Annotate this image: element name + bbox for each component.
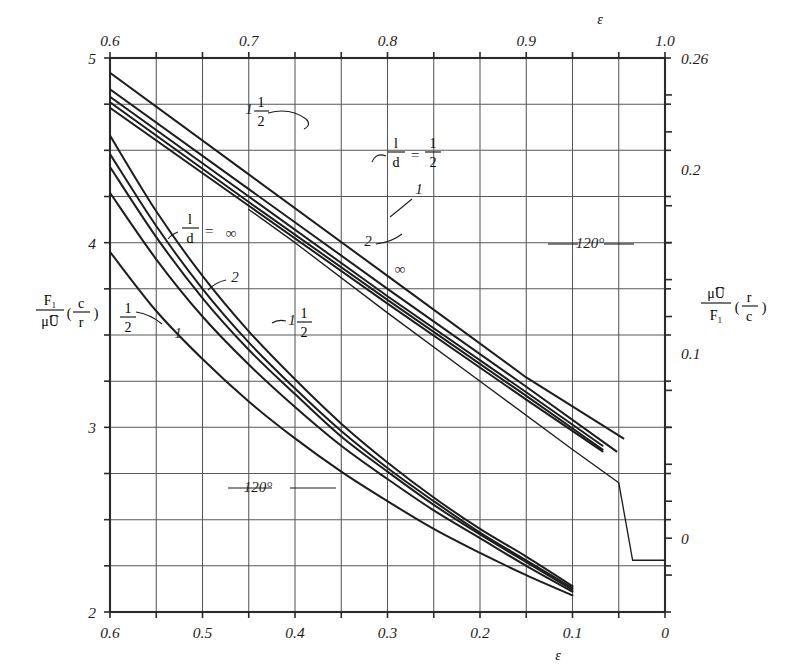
right-axis-numerator: μU̅ — [707, 286, 725, 301]
half-left-denominator: 2 — [125, 320, 132, 335]
top-tick-label: 1.0 — [655, 32, 675, 49]
ld-half-denominator: d — [393, 155, 400, 170]
one-half-top-numerator: 1 — [258, 95, 265, 110]
one-half-top-denominator: 2 — [258, 114, 265, 129]
ld-half-numerator: l — [394, 136, 398, 151]
ld-inf-numerator: l — [188, 212, 192, 227]
bottom-tick-label: 0.1 — [563, 624, 582, 641]
ld-half-equals: = — [410, 147, 420, 163]
left-axis-paren-open: ( — [67, 306, 72, 322]
left-axis-factor-numerator: c — [78, 296, 84, 311]
bottom-axis-label: ε — [555, 648, 561, 663]
one-half-left-whole: 1 — [288, 312, 296, 328]
ld-half-value-numerator: 1 — [430, 136, 437, 151]
chart-figure: 0.60.70.80.91.00.60.50.40.30.20.1054320.… — [0, 0, 789, 668]
left-axis-denominator: μU̅ — [41, 314, 59, 329]
left-axis-factor-denominator: r — [79, 315, 84, 330]
left-tick-label: 2 — [88, 604, 96, 621]
top-tick-label: 0.7 — [239, 32, 260, 49]
ld-half-value-denominator: 2 — [430, 155, 437, 170]
left-axis-numerator: F₁ — [44, 293, 57, 308]
top-tick-label: 0.9 — [517, 32, 537, 49]
annotation-2-top: 2 — [364, 233, 372, 249]
right-tick-label: 0.1 — [681, 345, 700, 362]
bottom-tick-label: 0.2 — [470, 624, 490, 641]
right-tick-label: 0.26 — [681, 50, 708, 67]
right-axis-paren-close: ) — [762, 300, 767, 316]
annotation-1-top: 1 — [415, 181, 423, 197]
one-half-left-denominator: 2 — [301, 325, 308, 340]
left-tick-label: 5 — [88, 50, 96, 67]
top-tick-label: 0.6 — [100, 32, 120, 49]
annotation-120-lower: 120° — [244, 479, 273, 495]
one-half-left-numerator: 1 — [301, 306, 308, 321]
right-axis-factor-denominator: c — [746, 309, 752, 324]
chart-svg: 0.60.70.80.91.00.60.50.40.30.20.1054320.… — [0, 0, 789, 668]
left-tick-label: 3 — [87, 419, 96, 436]
top-axis-label: ε — [597, 12, 603, 27]
right-axis-paren-open: ( — [735, 300, 740, 316]
bottom-tick-label: 0.6 — [100, 624, 120, 641]
bottom-tick-label: 0.4 — [285, 624, 305, 641]
left-tick-label: 4 — [88, 235, 96, 252]
bottom-tick-label: 0.5 — [193, 624, 213, 641]
left-axis-paren-close: ) — [94, 306, 99, 322]
ld-inf-denominator: d — [187, 231, 194, 246]
bottom-tick-label: 0 — [661, 624, 669, 641]
annotation-120-right: 120° — [576, 235, 605, 251]
annotation-2-left: 2 — [231, 269, 239, 285]
right-axis-denominator: F₁ — [710, 308, 723, 323]
annotation-1-left: 1 — [174, 325, 182, 341]
top-tick-label: 0.8 — [378, 32, 398, 49]
figure-background — [0, 0, 789, 668]
ld-inf-equals: = — [204, 223, 214, 239]
annotation-infinity-top: ∞ — [395, 261, 406, 277]
right-tick-label: 0 — [681, 530, 689, 547]
ld-inf-value: ∞ — [226, 225, 237, 241]
half-left-numerator: 1 — [125, 301, 132, 316]
right-tick-label: 0.2 — [681, 161, 701, 178]
right-axis-factor-numerator: r — [747, 290, 752, 305]
bottom-tick-label: 0.3 — [378, 624, 398, 641]
one-half-top-whole: 1 — [245, 101, 253, 117]
